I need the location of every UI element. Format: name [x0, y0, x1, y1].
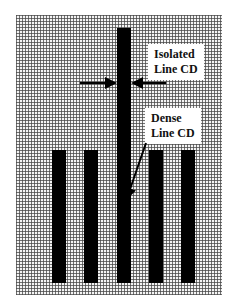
dense-pointer-arrow-icon [127, 143, 146, 198]
annotation-arrows [0, 0, 233, 304]
